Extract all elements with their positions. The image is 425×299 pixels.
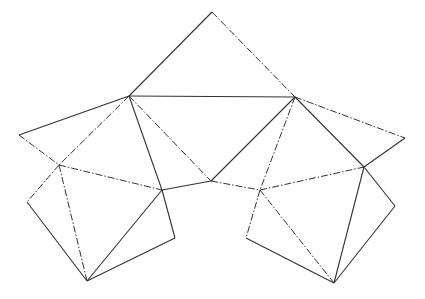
fold-line-C-BL xyxy=(59,165,87,281)
fold-line-E-F xyxy=(260,167,364,190)
fold-line-L-C xyxy=(19,135,59,165)
cut-line-A-L xyxy=(19,96,129,135)
fold-line-E-BR xyxy=(260,190,334,283)
fold-line-C-D xyxy=(59,165,162,190)
cut-line-F-Q2 xyxy=(364,167,395,206)
cut-line-B-F xyxy=(295,97,364,167)
cut-line-M-B xyxy=(211,97,295,181)
fold-line-B-E xyxy=(260,97,295,190)
cut-line-A-B xyxy=(129,96,295,97)
cut-line-A-D xyxy=(129,96,162,190)
cut-line-Q2-BR xyxy=(334,206,395,283)
fold-line-A-C xyxy=(59,96,129,165)
cut-line-D-M xyxy=(162,181,211,190)
fold-line-M-E xyxy=(211,181,260,190)
cut-line-R-F xyxy=(364,138,405,167)
cut-line-D-Q1 xyxy=(162,190,175,238)
polyhedron-net-diagram xyxy=(0,0,425,299)
cut-line-T-A xyxy=(129,12,212,96)
fold-line-E-P2 xyxy=(246,190,260,238)
fold-line-C-P1 xyxy=(27,165,59,202)
cut-line-P2-BR xyxy=(246,238,334,283)
fold-line-A-M xyxy=(129,96,211,181)
cut-line-D-BL xyxy=(87,190,162,281)
fold-line-T-B xyxy=(212,12,295,97)
net-edges xyxy=(19,12,405,283)
cut-line-F-BR xyxy=(334,167,364,283)
cut-line-Q1-BL xyxy=(87,238,175,281)
fold-line-B-R xyxy=(295,97,405,138)
cut-line-P1-BL xyxy=(27,202,87,281)
